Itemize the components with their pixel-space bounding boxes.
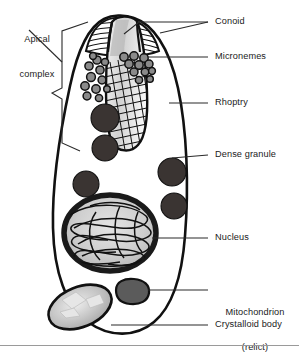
nucleus [64, 195, 156, 271]
label-micronemes: Micronemes [215, 51, 266, 63]
dense-granule [158, 158, 186, 186]
label-crystalloid-body: Crystalloid body [215, 319, 282, 331]
dense-granule [91, 104, 119, 132]
dense-granule [161, 193, 187, 219]
label-dense-granule: Dense granule [215, 149, 276, 161]
cell-diagram-figure: Apical complex Conoid Micronemes Rhoptry… [0, 0, 299, 355]
label-nucleus: Nucleus [215, 232, 249, 244]
label-rhoptry: Rhoptry [215, 97, 248, 109]
leader-conoid-branch [160, 22, 208, 33]
label-conoid: Conoid [215, 16, 245, 28]
dense-granule [92, 135, 118, 161]
footer-rule [0, 345, 299, 346]
label-apical-complex: Apical complex [6, 11, 68, 103]
dense-granule [73, 171, 99, 197]
mitochondrion [116, 279, 149, 304]
